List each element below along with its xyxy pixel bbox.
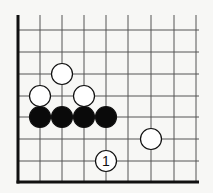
black-stone [52,107,73,128]
white-stone [141,129,162,150]
go-board: 1 [0,0,213,193]
black-stone [74,107,95,128]
move-number-label: 1 [102,153,110,169]
white-stone [30,86,51,107]
black-stone [96,107,117,128]
black-stone [30,107,51,128]
white-stone [74,86,95,107]
white-stone [52,64,73,85]
